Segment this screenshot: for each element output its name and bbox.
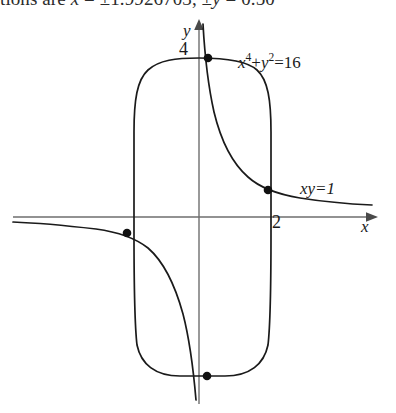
quartic-label-rhs: =16	[274, 53, 301, 72]
intersection-point-left	[123, 229, 132, 238]
hyperbola-label-text: xy=1	[300, 179, 335, 198]
y-axis-label: y	[183, 22, 191, 39]
intersection-point-top	[204, 54, 213, 63]
quartic-label-x: x	[238, 53, 246, 72]
intersection-point-bottom	[203, 372, 212, 381]
curve-intersection-figure: y x 4 2 x4+y2=16 xy=1	[0, 0, 396, 413]
hyperbola-branch-upper-right	[203, 24, 372, 205]
axes-group	[13, 19, 378, 404]
y-axis-tick-label-4: 4	[179, 40, 188, 58]
intersection-point-right	[264, 186, 273, 195]
x-axis-tick-label-2: 2	[272, 213, 281, 231]
quartic-equation-label: x4+y2=16	[238, 54, 301, 71]
figure-canvas	[0, 0, 396, 413]
hyperbola-branch-lower-left	[13, 222, 196, 400]
x-axis-label: x	[361, 218, 369, 235]
quartic-label-plus: +	[251, 53, 261, 72]
hyperbola-curve	[13, 24, 372, 400]
hyperbola-equation-label: xy=1	[300, 180, 335, 197]
